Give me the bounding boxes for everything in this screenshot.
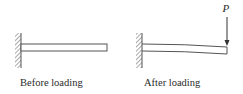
cantilever-diagram: Before loading P After loading [0, 0, 243, 94]
after-loading-label: After loading [144, 77, 201, 88]
fixed-support-wall [15, 33, 21, 68]
load-p-label: P [222, 2, 230, 14]
before-loading-panel: Before loading [15, 33, 107, 88]
deflected-beam [142, 44, 227, 54]
fixed-support-wall [136, 33, 142, 68]
undeformed-beam [21, 44, 107, 51]
before-loading-label: Before loading [20, 77, 83, 88]
load-arrow-icon [225, 17, 230, 46]
after-loading-panel: P After loading [136, 2, 230, 88]
